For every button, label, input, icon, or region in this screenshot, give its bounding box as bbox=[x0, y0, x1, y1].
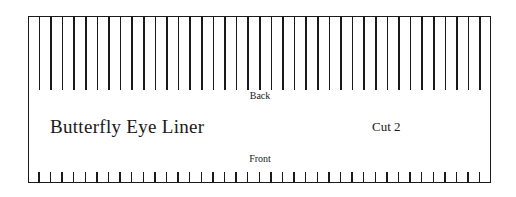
fringe-line bbox=[155, 17, 157, 90]
tick-mark bbox=[467, 172, 469, 182]
tick-mark bbox=[328, 172, 330, 182]
back-label: Back bbox=[250, 90, 271, 101]
tick-mark bbox=[38, 172, 40, 182]
tick-mark bbox=[119, 172, 121, 182]
fringe-line bbox=[201, 17, 203, 90]
fringe-line bbox=[73, 17, 75, 90]
tick-mark bbox=[247, 172, 249, 182]
fringe-line bbox=[62, 17, 64, 90]
tick-mark bbox=[433, 172, 435, 182]
tick-mark bbox=[212, 172, 214, 182]
fringe-line bbox=[213, 17, 215, 90]
tick-mark bbox=[259, 172, 261, 182]
fringe-line bbox=[479, 17, 481, 90]
tick-mark bbox=[143, 172, 145, 182]
fringe-line bbox=[294, 17, 296, 90]
pattern-title: Butterfly Eye Liner bbox=[50, 116, 204, 138]
tick-mark bbox=[235, 172, 237, 182]
fringe-line bbox=[282, 17, 284, 90]
fringe-line bbox=[85, 17, 87, 90]
tick-mark bbox=[386, 172, 388, 182]
tick-mark bbox=[317, 172, 319, 182]
tick-mark bbox=[96, 172, 98, 182]
tick-mark bbox=[398, 172, 400, 182]
fringe-line bbox=[271, 17, 273, 90]
tick-mark bbox=[166, 172, 168, 182]
front-label: Front bbox=[249, 153, 271, 164]
tick-mark bbox=[189, 172, 191, 182]
fringe-line bbox=[433, 17, 435, 90]
fringe-line bbox=[305, 17, 307, 90]
tick-mark bbox=[270, 172, 272, 182]
fringe-line bbox=[224, 17, 226, 90]
fringe-line bbox=[131, 17, 133, 90]
fringe-line bbox=[189, 17, 191, 90]
tick-mark bbox=[61, 172, 63, 182]
tick-mark bbox=[224, 172, 226, 182]
fringe-line bbox=[39, 17, 41, 90]
tick-mark bbox=[351, 172, 353, 182]
tick-mark bbox=[375, 172, 377, 182]
tick-mark bbox=[131, 172, 133, 182]
tick-mark bbox=[305, 172, 307, 182]
tick-mark bbox=[293, 172, 295, 182]
fringe-line bbox=[166, 17, 168, 90]
tick-mark bbox=[409, 172, 411, 182]
tick-mark bbox=[201, 172, 203, 182]
tick-mark bbox=[456, 172, 458, 182]
fringe-line bbox=[375, 17, 377, 90]
fringe-line bbox=[259, 17, 261, 90]
fringe-line bbox=[445, 17, 447, 90]
tick-mark bbox=[363, 172, 365, 182]
tick-mark bbox=[108, 172, 110, 182]
tick-mark bbox=[73, 172, 75, 182]
fringe-line bbox=[247, 17, 249, 90]
fringe-line bbox=[468, 17, 470, 90]
fringe-line bbox=[108, 17, 110, 90]
tick-mark bbox=[340, 172, 342, 182]
tick-mark bbox=[177, 172, 179, 182]
fringe-line bbox=[97, 17, 99, 90]
fringe-line bbox=[352, 17, 354, 90]
fringe-line bbox=[317, 17, 319, 90]
fringe-line bbox=[387, 17, 389, 90]
fringe-line bbox=[410, 17, 412, 90]
tick-mark bbox=[50, 172, 52, 182]
cut-count-label: Cut 2 bbox=[372, 119, 401, 135]
tick-mark bbox=[85, 172, 87, 182]
tick-mark bbox=[444, 172, 446, 182]
fringe-line bbox=[143, 17, 145, 90]
tick-mark bbox=[421, 172, 423, 182]
fringe-line bbox=[340, 17, 342, 90]
tick-mark bbox=[282, 172, 284, 182]
fringe-line bbox=[236, 17, 238, 90]
fringe-line bbox=[456, 17, 458, 90]
fringe-line bbox=[50, 17, 52, 90]
fringe-line bbox=[178, 17, 180, 90]
fringe-line bbox=[120, 17, 122, 90]
fringe-line bbox=[363, 17, 365, 90]
fringe-line bbox=[421, 17, 423, 90]
fringe-line bbox=[329, 17, 331, 90]
fringe-line bbox=[398, 17, 400, 90]
tick-mark bbox=[479, 172, 481, 182]
tick-mark bbox=[154, 172, 156, 182]
